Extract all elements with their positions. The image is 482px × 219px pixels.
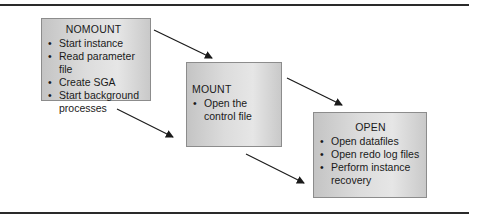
bottom-rule xyxy=(0,212,469,214)
arrow-nomount-to-mount-upper xyxy=(154,30,212,58)
arrow-mount-to-open-lower xyxy=(246,154,304,183)
arrow-mount-to-open-upper xyxy=(287,78,342,105)
arrows-layer xyxy=(0,0,482,219)
arrow-nomount-to-mount-lower xyxy=(117,109,173,137)
